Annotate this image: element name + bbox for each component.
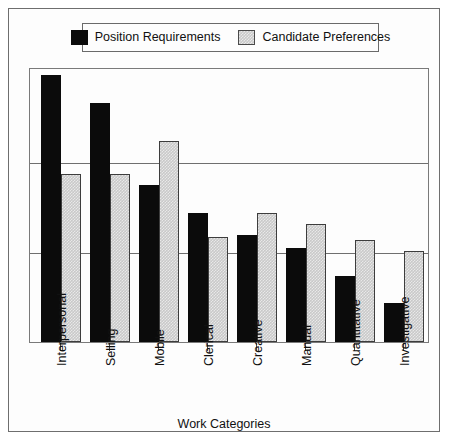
bar-group [90,69,130,342]
x-tick-label: Selling [104,352,118,366]
x-tick-label: Interpersonal [55,352,69,366]
plot-area [29,68,429,343]
legend-entry-candidate-preferences: Candidate Preferences [238,30,390,45]
bar-position-requirements [188,213,208,342]
chart-legend: Position Requirements Candidate Preferen… [82,23,379,52]
bar-series-layer [30,69,428,342]
legend-entry-position-requirements: Position Requirements [71,30,221,45]
x-axis-tick-labels: InterpersonalSellingMobileClericalCreati… [29,352,429,424]
bar-group [188,69,228,342]
gray-swatch-icon [238,30,255,45]
legend-label-position-requirements: Position Requirements [95,31,221,44]
bar-position-requirements [139,185,159,342]
bar-candidate-preferences [159,141,179,342]
x-tick-label: Manual [300,352,314,366]
bar-group [286,69,326,342]
chart-figure: Position Requirements Candidate Preferen… [8,8,440,432]
bar-position-requirements [90,103,110,342]
bar-group [139,69,179,342]
black-swatch-icon [71,30,88,45]
x-axis-ticks [29,343,429,352]
x-tick-label: Mobile [153,352,167,366]
x-tick-label: Creative [251,352,265,366]
x-tick-label: Clerical [202,352,216,366]
x-tick-label: Investigative [398,352,412,366]
legend-label-candidate-preferences: Candidate Preferences [262,31,390,44]
bar-candidate-preferences [110,174,130,342]
bar-group [237,69,277,342]
x-axis-title: Work Categories [9,417,439,431]
x-tick-label: Quantitative [349,352,363,366]
